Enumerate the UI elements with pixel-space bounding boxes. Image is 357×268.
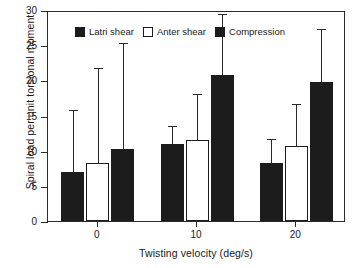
legend-swatch-icon bbox=[215, 27, 225, 37]
bar bbox=[285, 146, 308, 221]
error-bar-line bbox=[222, 14, 223, 77]
y-tick-label: 10 bbox=[0, 147, 37, 157]
legend-label: Latri shear bbox=[89, 26, 134, 37]
y-tick-label: 0 bbox=[0, 217, 37, 227]
x-tick-label: 10 bbox=[176, 229, 216, 240]
legend-entry: Latri shear bbox=[75, 26, 134, 37]
legend-label: Anter shear bbox=[157, 26, 206, 37]
x-axis-title: Twisting velocity (deg/s) bbox=[47, 247, 345, 259]
error-bar-line bbox=[172, 126, 173, 146]
error-bar-line bbox=[123, 43, 124, 151]
legend-swatch-icon bbox=[143, 27, 153, 37]
y-tick-label: 30 bbox=[0, 6, 37, 16]
bar bbox=[310, 82, 333, 221]
error-bar-line bbox=[271, 139, 272, 164]
error-bar-line bbox=[73, 110, 74, 173]
y-tick-label: 20 bbox=[0, 76, 37, 86]
x-tick-label: 0 bbox=[77, 229, 117, 240]
x-tick-mark bbox=[196, 222, 197, 227]
legend-label: Compression bbox=[229, 26, 285, 37]
error-bar-cap bbox=[119, 43, 128, 44]
chart-legend: Latri shearAnter shearCompression bbox=[75, 26, 285, 37]
y-tick-mark bbox=[41, 222, 48, 223]
error-bar-line bbox=[296, 104, 297, 148]
error-bar-line bbox=[98, 68, 99, 165]
x-tick-label: 20 bbox=[275, 229, 315, 240]
y-axis-title: Spiral load per unit torsional moment bbox=[24, 0, 36, 208]
x-tick-mark bbox=[97, 222, 98, 227]
bar bbox=[186, 140, 209, 221]
plot-area bbox=[47, 11, 345, 222]
error-bar-cap bbox=[69, 110, 78, 111]
error-bar-cap bbox=[267, 139, 276, 140]
bar-chart-figure: Spiral load per unit torsional moment 05… bbox=[0, 0, 357, 268]
y-tick-label: 5 bbox=[0, 182, 37, 192]
x-tick-mark bbox=[295, 222, 296, 227]
legend-entry: Compression bbox=[215, 26, 285, 37]
legend-swatch-icon bbox=[75, 27, 85, 37]
legend-entry: Anter shear bbox=[143, 26, 206, 37]
error-bar-cap bbox=[168, 126, 177, 127]
error-bar-line bbox=[197, 94, 198, 142]
bar bbox=[260, 163, 283, 221]
bar bbox=[211, 75, 234, 221]
error-bar-cap bbox=[218, 14, 227, 15]
bar bbox=[161, 144, 184, 221]
error-bar-cap bbox=[94, 68, 103, 69]
error-bar-line bbox=[321, 29, 322, 84]
bar bbox=[111, 149, 134, 221]
error-bar-cap bbox=[292, 104, 301, 105]
y-tick-label: 15 bbox=[0, 112, 37, 122]
y-tick-label: 25 bbox=[0, 41, 37, 51]
error-bar-cap bbox=[317, 29, 326, 30]
error-bar-cap bbox=[193, 94, 202, 95]
bar bbox=[61, 172, 84, 221]
bar bbox=[86, 163, 109, 221]
